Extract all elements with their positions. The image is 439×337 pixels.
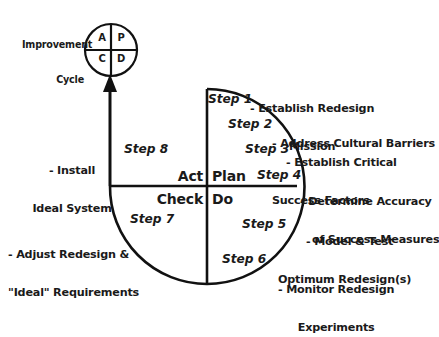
quadrant-label-do: Do bbox=[212, 192, 233, 208]
improvement-cycle-label-line2: Cycle bbox=[22, 74, 84, 86]
step-label-1: Step 1 bbox=[208, 93, 252, 107]
quadrant-label-plan: Plan bbox=[212, 169, 246, 185]
step-label-5: Step 5 bbox=[242, 218, 286, 232]
step-label-8: Step 8 bbox=[124, 143, 168, 157]
annotation-line-2: Ideal System bbox=[20, 203, 124, 216]
annotation-monitor-redesign-experiments: - Monitor Redesign Experiments bbox=[278, 259, 394, 337]
step-label-7: Step 7 bbox=[130, 213, 174, 227]
annotation-line-1: - Install bbox=[20, 165, 124, 178]
annotation-line-1: - Determine Accuracy bbox=[300, 196, 439, 209]
improvement-cycle-label-line1: Improvement bbox=[22, 39, 84, 51]
quadrant-label-act: Act bbox=[148, 169, 203, 185]
pdca-do-letter: D bbox=[115, 53, 127, 64]
annotation-line-1: - Model & Test bbox=[306, 236, 411, 249]
annotation-adjust-redesign-ideal-requirements: - Adjust Redesign & "Ideal" Requirements bbox=[8, 224, 128, 324]
annotation-line-1: - Establish Critical bbox=[286, 157, 397, 170]
improvement-cycle-label: Improvement Cycle bbox=[22, 16, 84, 108]
annotation-line-2: Experiments bbox=[278, 322, 394, 335]
annotation-line-1: - Monitor Redesign bbox=[278, 284, 394, 297]
quadrant-label-check: Check bbox=[135, 192, 203, 208]
pdca-check-letter: C bbox=[96, 53, 108, 64]
pdca-plan-letter: P bbox=[115, 32, 127, 43]
pdca-act-letter: A bbox=[96, 32, 108, 43]
annotation-line-2: "Ideal" Requirements bbox=[8, 287, 128, 300]
annotation-line-1: - Adjust Redesign & bbox=[8, 249, 128, 262]
step-label-6: Step 6 bbox=[222, 253, 266, 267]
